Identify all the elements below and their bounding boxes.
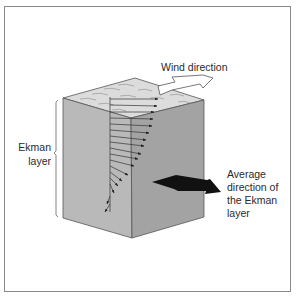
wind-direction-label: Wind direction (161, 61, 228, 73)
average-direction-label-line4: layer (227, 207, 250, 219)
average-direction-label-line2: direction of (227, 181, 278, 193)
ekman-diagram: Wind direction Ekman layer Average direc… (0, 0, 298, 300)
block-left-face (63, 98, 132, 238)
block-right-face (131, 100, 204, 238)
average-direction-label-line3: the Ekman (227, 194, 277, 206)
average-direction-label-line1: Average (227, 168, 266, 180)
ekman-layer-bracket (54, 100, 58, 217)
ekman-layer-label-line2: layer (28, 155, 51, 167)
wind-direction-arrow (158, 75, 213, 95)
ekman-layer-label-line1: Ekman (18, 141, 51, 153)
